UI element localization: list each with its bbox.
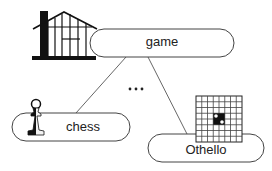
node-chess-label: chess	[58, 119, 108, 134]
node-othello-label: Othello	[176, 142, 236, 157]
othello-board-icon	[196, 96, 242, 142]
edge-game-chess	[76, 57, 126, 113]
house-frame-icon	[32, 11, 97, 60]
ellipsis-icon	[129, 88, 144, 91]
node-game-label: game	[132, 34, 192, 49]
edge-game-othello	[148, 57, 187, 134]
